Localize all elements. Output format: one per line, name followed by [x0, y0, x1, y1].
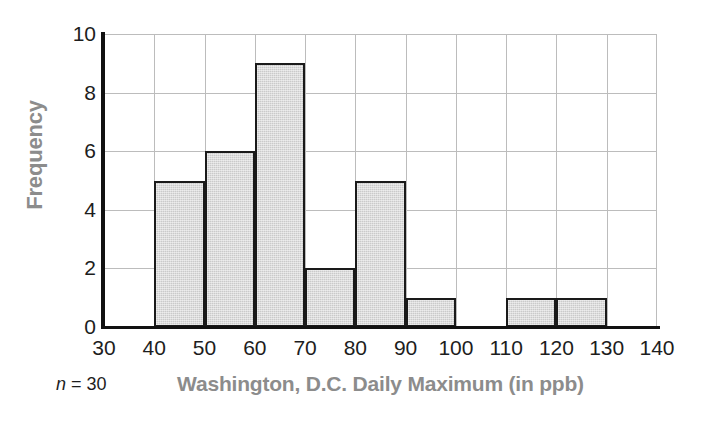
bar-120-130 [556, 298, 606, 327]
gridline-x-130 [607, 34, 608, 327]
gridline-y-8 [104, 93, 657, 94]
y-tick-label-8: 8 [0, 81, 104, 105]
bar-70-80 [305, 268, 355, 327]
y-tick-label-4: 4 [0, 198, 104, 222]
sample-size-value: = 30 [66, 374, 107, 394]
gridline-x-120 [556, 34, 557, 327]
plot-area [104, 34, 657, 327]
bar-110-120 [506, 298, 556, 327]
sample-size-symbol: n [56, 374, 66, 394]
x-axis-title: Washington, D.C. Daily Maximum (in ppb) [104, 372, 657, 396]
sample-size-note: n = 30 [56, 374, 107, 395]
gridline-x-90 [406, 34, 407, 327]
bar-60-70 [255, 63, 305, 327]
histogram-figure: Frequency 0246810 3040506070809010011012… [0, 0, 709, 427]
bar-90-100 [406, 298, 456, 327]
gridline-x-100 [456, 34, 457, 327]
gridline-y-6 [104, 151, 657, 152]
bar-50-60 [205, 151, 255, 327]
y-tick-label-6: 6 [0, 139, 104, 163]
bar-40-50 [154, 181, 204, 328]
y-axis-line [101, 32, 105, 329]
x-tick-label-140: 140 [617, 336, 697, 360]
gridline-x-110 [506, 34, 507, 327]
x-axis-line [101, 326, 660, 330]
bar-80-90 [355, 181, 405, 328]
figure-footer: n = 30 Washington, D.C. Daily Maximum (i… [0, 372, 709, 412]
y-tick-label-10: 10 [0, 22, 104, 46]
y-tick-label-2: 2 [0, 256, 104, 280]
x-axis-tick-labels: 30405060708090100110120130140 [0, 336, 709, 370]
